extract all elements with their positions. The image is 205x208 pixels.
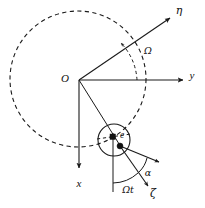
alpha-angle-label: α (145, 167, 152, 178)
omega-t-angle-arc (113, 173, 138, 183)
omega-angle-label: Ω (143, 45, 152, 56)
diagram-canvas: O x y η ζ Ω Ωt α e (0, 0, 205, 208)
zeta-axis-label: ζ (150, 187, 157, 200)
figure-container: O x y η ζ Ω Ωt α e (0, 0, 205, 208)
origin-label: O (61, 72, 69, 84)
body-round-dot (117, 143, 123, 149)
orbit-dashed-circle (10, 11, 146, 147)
body-square-marker (110, 134, 115, 139)
eta-axis-label: η (176, 4, 183, 17)
y-axis-label: y (189, 69, 195, 81)
omega-t-angle-label: Ωt (121, 184, 134, 195)
body-circle (98, 124, 130, 156)
x-axis-label: x (76, 177, 82, 189)
point-e-label: e (120, 130, 124, 140)
eta-axis-line (79, 18, 170, 80)
omega-angle-arc (121, 43, 137, 80)
